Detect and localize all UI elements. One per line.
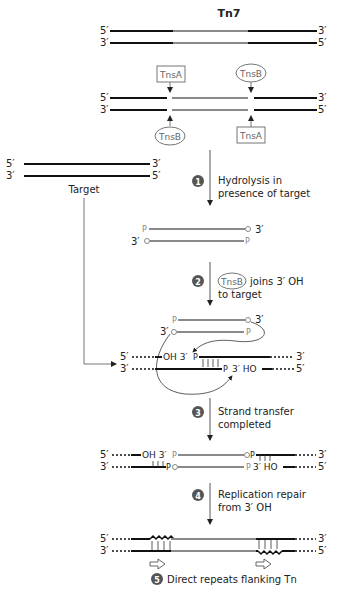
tn7-transposition-diagram: Tn7 5′ 3′ 3′ 5′ TnsA TnsB 5′ 3′ 3′ 5′ Tn…: [0, 0, 344, 594]
svg-text:3′: 3′: [100, 461, 109, 472]
svg-text:1: 1: [195, 178, 201, 187]
svg-text:Direct repeats flanking Tn: Direct repeats flanking Tn: [167, 574, 297, 585]
svg-text:5′: 5′: [120, 351, 129, 362]
svg-text:TnsB: TnsB: [220, 277, 243, 287]
svg-text:Replication repair: Replication repair: [218, 489, 307, 500]
svg-text:3′: 3′: [100, 545, 109, 556]
svg-text:P: P: [172, 451, 177, 460]
svg-text:4: 4: [195, 492, 201, 501]
diagram-title: Tn7: [218, 7, 241, 20]
svg-text:P: P: [172, 316, 177, 325]
svg-text:P: P: [166, 463, 171, 472]
svg-text:joins 3′ OH: joins 3′ OH: [249, 276, 304, 287]
svg-text:from 3′ OH: from 3′ OH: [218, 502, 272, 513]
svg-text:TnsA: TnsA: [239, 131, 263, 141]
svg-text:5′: 5′: [100, 449, 109, 460]
svg-text:5′: 5′: [6, 158, 15, 169]
direct-repeat-arrow-left: [150, 559, 165, 569]
svg-text:3′: 3′: [318, 533, 327, 544]
final-product: 5′ 3′ 3′ 5′: [100, 533, 327, 569]
svg-text:3′: 3′: [120, 363, 129, 374]
strand-joining: P 3′ 3′ P 5′ OH 3′ P 3′ 3′ P 3′ HO 5′: [120, 314, 305, 394]
target-duplex: 5′ 3′ 3′ 5′ Target: [6, 158, 161, 364]
svg-text:3′: 3′: [152, 158, 161, 169]
svg-text:3′: 3′: [131, 236, 140, 247]
svg-text:5′: 5′: [100, 92, 109, 103]
svg-text:5′: 5′: [100, 25, 109, 36]
tn7-duplex: 5′ 3′ 3′ 5′: [100, 25, 327, 48]
svg-text:P: P: [246, 463, 251, 472]
svg-text:5′: 5′: [152, 170, 161, 181]
svg-text:completed: completed: [218, 419, 271, 430]
svg-text:5′: 5′: [318, 104, 327, 115]
svg-text:P: P: [223, 365, 228, 374]
svg-text:2: 2: [195, 278, 201, 287]
svg-text:3: 3: [195, 409, 201, 418]
svg-text:TnsB: TnsB: [158, 132, 181, 142]
cleavage-duplex: TnsA TnsB 5′ 3′ 3′ 5′ TnsB TnsA: [100, 64, 327, 145]
svg-text:3′: 3′: [318, 92, 327, 103]
step-4: 4 Replication repair from 3′ OH: [192, 489, 307, 513]
svg-text:Target: Target: [68, 184, 100, 195]
svg-text:to target: to target: [218, 289, 262, 300]
svg-text:3′: 3′: [100, 104, 109, 115]
svg-text:3′: 3′: [6, 170, 15, 181]
svg-text:3′: 3′: [318, 449, 327, 460]
svg-text:5′: 5′: [296, 363, 305, 374]
svg-text:presence of target: presence of target: [218, 188, 310, 199]
step-2: 2 TnsB joins 3′ OH to target: [192, 273, 304, 300]
excised-transposon: P 3′ 3′ P: [131, 224, 264, 247]
svg-text:3′: 3′: [100, 37, 109, 48]
svg-text:3′: 3′: [255, 224, 264, 235]
strand-transfer-product: 5′ OH 3′ P P 3′ 3′ P P 3′ HO 5′: [100, 449, 327, 472]
svg-text:5: 5: [154, 576, 160, 585]
step-3: 3 Strand transfer completed: [192, 406, 295, 430]
step-5: 5 Direct repeats flanking Tn: [151, 573, 297, 585]
svg-text:3′ HO: 3′ HO: [232, 364, 256, 374]
svg-text:3′: 3′: [296, 351, 305, 362]
svg-text:3′ HO: 3′ HO: [253, 462, 277, 472]
svg-text:TnsA: TnsA: [159, 70, 183, 80]
svg-text:P: P: [250, 451, 255, 460]
svg-text:P: P: [246, 328, 251, 337]
svg-text:TnsB: TnsB: [239, 69, 262, 79]
svg-text:P: P: [142, 225, 147, 234]
svg-text:Hydrolysis in: Hydrolysis in: [218, 175, 282, 186]
svg-text:5′: 5′: [100, 533, 109, 544]
svg-text:5′: 5′: [318, 37, 327, 48]
svg-text:OH 3′: OH 3′: [163, 352, 187, 362]
direct-repeat-arrow-right: [256, 559, 271, 569]
svg-text:P: P: [245, 237, 250, 246]
svg-text:3′: 3′: [160, 326, 169, 337]
svg-text:3′: 3′: [255, 314, 264, 325]
svg-text:Strand transfer: Strand transfer: [218, 406, 295, 417]
svg-text:P: P: [193, 353, 198, 362]
svg-text:3′: 3′: [318, 25, 327, 36]
svg-text:5′: 5′: [318, 461, 327, 472]
svg-text:5′: 5′: [318, 545, 327, 556]
svg-text:OH 3′: OH 3′: [142, 450, 166, 460]
